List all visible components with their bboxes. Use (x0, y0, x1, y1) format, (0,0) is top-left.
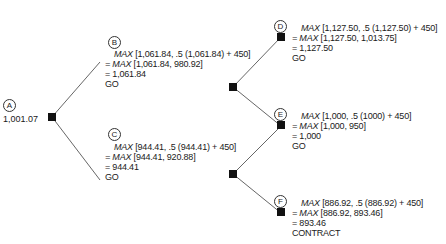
edge-cd-e (233, 126, 281, 174)
node-f-square (277, 208, 285, 216)
node-label-f: F (274, 195, 287, 208)
node-label-b: B (108, 36, 121, 49)
decision: GO (292, 53, 437, 63)
node-label-a: A (3, 99, 16, 112)
edge-bc-e (233, 87, 281, 126)
node-d-square (277, 33, 285, 41)
edge-a-c (52, 117, 100, 180)
max-fn: = MAX (292, 33, 318, 43)
root-value: 1,001.07 (3, 114, 38, 124)
decision: GO (292, 141, 411, 151)
args: [886.92, .5 (886.92) + 450] (322, 198, 423, 208)
args: [1,061.84, 980.92] (134, 59, 203, 69)
max-fn: MAX (301, 23, 320, 33)
result: = 893.46 (292, 218, 423, 228)
result: = 1,061.84 (105, 69, 250, 79)
max-fn: MAX (114, 142, 133, 152)
args: [944.41, 920.88] (134, 152, 196, 162)
args: [1,000, .5 (1000) + 450] (322, 111, 411, 121)
node-label-c: C (108, 128, 121, 141)
result: = 1,127.50 (292, 43, 437, 53)
node-a-square (48, 113, 56, 121)
node-f-calc: MAX [886.92, .5 (886.92) + 450] = MAX [8… (292, 198, 423, 238)
max-fn: MAX (301, 111, 320, 121)
max-fn: = MAX (292, 121, 318, 131)
node-c-calc: MAX [944.41, .5 (944.41) + 450] = MAX [9… (105, 142, 236, 182)
args: [1,000, 950] (321, 121, 366, 131)
node-b-calc: MAX [1,061.84, .5 (1,061.84) + 450] = MA… (105, 49, 250, 89)
args: [1,127.50, .5 (1,127.50) + 450] (322, 23, 437, 33)
args: [944.41, .5 (944.41) + 450] (135, 142, 236, 152)
decision: GO (105, 79, 250, 89)
args: [886.92, 893.46] (321, 208, 383, 218)
edge-cd-f (233, 174, 281, 213)
args: [1,061.84, .5 (1,061.84) + 450] (135, 49, 250, 59)
node-e-square (277, 121, 285, 129)
result: = 944.41 (105, 162, 236, 172)
args: [1,127.50, 1,013.75] (321, 33, 397, 43)
decision: CONTRACT (292, 228, 423, 238)
result: = 1,000 (292, 131, 411, 141)
node-e-calc: MAX [1,000, .5 (1000) + 450] = MAX [1,00… (292, 111, 411, 151)
max-fn: = MAX (292, 208, 318, 218)
max-fn: MAX (301, 198, 320, 208)
node-label-e: E (274, 108, 287, 121)
max-fn: = MAX (105, 152, 131, 162)
max-fn: MAX (114, 49, 133, 59)
edge-a-b (52, 62, 100, 117)
decision: GO (105, 172, 236, 182)
max-fn: = MAX (105, 59, 131, 69)
node-d-calc: MAX [1,127.50, .5 (1,127.50) + 450] = MA… (292, 23, 437, 63)
node-label-d: D (274, 20, 287, 33)
